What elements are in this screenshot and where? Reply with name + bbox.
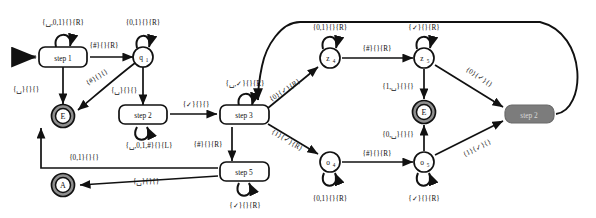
node-q1-label: q bbox=[139, 53, 143, 62]
node-step-1[interactable]: step 1 bbox=[39, 47, 87, 67]
node-step-2-label: step 2 bbox=[134, 111, 152, 120]
edge-q1-step2-label: {␣}{}{} bbox=[111, 87, 137, 95]
node-e-left[interactable]: E bbox=[52, 105, 75, 128]
node-e-right[interactable]: E bbox=[413, 101, 436, 124]
edge-z5-self-label: {✓}{}{R} bbox=[408, 24, 440, 32]
edge-step1-self-label: {␣,0,1}{}{R} bbox=[42, 19, 84, 27]
edge-step2-self-label: {␣,0,1,#}{}{L} bbox=[126, 142, 173, 150]
node-z5-sublabel: 5 bbox=[427, 58, 430, 64]
node-q1-sublabel: 1 bbox=[146, 57, 149, 63]
edge-step2-step3-label: {✓}{}{} bbox=[183, 101, 210, 109]
node-a-accept-label: A bbox=[60, 181, 66, 190]
node-o4[interactable]: o 4 bbox=[320, 152, 340, 172]
edge-z4-self-label: {0,1}{}{R} bbox=[313, 24, 347, 32]
edge-halt-step3-return bbox=[258, 22, 577, 114]
node-step-2-halt-label: step 2 bbox=[520, 111, 538, 120]
node-step-3-label: step 3 bbox=[235, 111, 253, 120]
node-step-5[interactable]: step 5 bbox=[220, 162, 269, 181]
node-o4-sublabel: 4 bbox=[333, 162, 336, 168]
node-q1[interactable]: q 1 bbox=[133, 47, 153, 67]
node-o5[interactable]: o 5 bbox=[414, 152, 434, 172]
node-e-right-label: E bbox=[422, 108, 427, 117]
edge-step3-self-label: {␣,✓}{}{R} bbox=[226, 80, 265, 88]
node-a-accept[interactable]: A bbox=[52, 174, 75, 197]
node-z5[interactable]: z 5 bbox=[414, 48, 434, 68]
edge-z4-z5-label: {#}{}{R} bbox=[362, 45, 391, 53]
edge-o5-self bbox=[417, 173, 431, 186]
edge-z5-e-label: {1,␣}{}{} bbox=[382, 83, 414, 91]
edge-o5-e-label: {0,␣}{}{} bbox=[382, 131, 414, 139]
edge-step3-o4-label: {1}{✓}{R} bbox=[270, 128, 304, 153]
edge-step3-z4-label: {0}{✓}{R} bbox=[268, 77, 302, 103]
edge-step5-self-label: {✓}{}{R} bbox=[229, 202, 261, 210]
node-step-5-label: step 5 bbox=[235, 168, 253, 177]
state-diagram: step 1 q 1 E step 2 step 3 step 5 A z 4 bbox=[0, 0, 596, 218]
edge-q1-self-label: {0,1}{}{R} bbox=[126, 19, 160, 27]
edge-step3-step5-label: {#}{}{R} bbox=[193, 141, 222, 149]
node-step-1-label: step 1 bbox=[54, 54, 72, 63]
edge-step1-self bbox=[56, 35, 71, 47]
node-step-2-halt[interactable]: step 2 bbox=[505, 105, 554, 123]
edge-o4-o5-label: {#}{}{R} bbox=[362, 150, 391, 158]
edge-step2-self bbox=[135, 127, 148, 140]
edge-o4-self-label: {0,1}{}{R} bbox=[313, 195, 347, 203]
edge-o4-self bbox=[323, 173, 337, 186]
node-z4-sublabel: 4 bbox=[333, 58, 336, 64]
node-step-3[interactable]: step 3 bbox=[220, 105, 269, 124]
edge-step5-a-label: {␣}{}{} bbox=[133, 178, 159, 186]
node-o5-label: o bbox=[420, 158, 424, 167]
node-o4-label: o bbox=[326, 158, 330, 167]
edge-step1-e-label: {␣}{}{} bbox=[13, 86, 39, 94]
edge-o5-halt-label: {1}{✓}{} bbox=[462, 138, 493, 159]
node-o5-sublabel: 5 bbox=[427, 162, 430, 168]
node-z4[interactable]: z 4 bbox=[320, 48, 340, 68]
edge-step5-self bbox=[237, 183, 250, 196]
edge-q1-e-label: {#}{}{} bbox=[85, 67, 110, 87]
node-step-2[interactable]: step 2 bbox=[119, 105, 167, 124]
edge-step1-q1-label: {#}{}{R} bbox=[89, 42, 118, 50]
edge-step5-e-label: {0,1}{}{} bbox=[69, 154, 99, 162]
node-e-left-label: E bbox=[61, 112, 66, 121]
edge-o5-self-label: {✓}{}{R} bbox=[408, 195, 440, 203]
